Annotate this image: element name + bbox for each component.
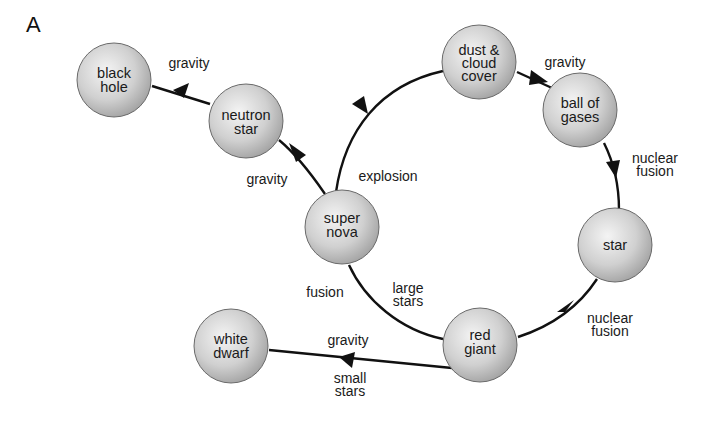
node-neutron-star: neutron star: [209, 84, 283, 158]
edge-redgiant-to-whitedwarf: [269, 350, 452, 368]
node-ball-of-gases: ball of gases: [543, 73, 617, 147]
node-label: nova: [326, 224, 358, 240]
edge-label: stars: [393, 293, 423, 309]
node-label: gases: [561, 109, 600, 125]
edge-star-to-redgiant: [518, 279, 597, 337]
node-label: cover: [461, 68, 497, 84]
edge-label: stars: [335, 383, 365, 399]
node-dust-cloud: dust & cloud cover: [442, 25, 516, 99]
edge-label: fusion: [636, 163, 673, 179]
edge-label: gravity: [544, 54, 585, 70]
edge-label: fusion: [591, 323, 628, 339]
node-label: star: [603, 237, 627, 253]
node-supernova: super nova: [305, 190, 379, 264]
edge-ball-to-star: [604, 143, 619, 210]
edge-label: fusion: [306, 284, 343, 300]
node-white-dwarf: white dwarf: [194, 309, 268, 383]
node-star: star: [578, 208, 652, 282]
node-label: giant: [464, 341, 495, 357]
node-label: star: [234, 121, 258, 137]
arrow-head-icon: [352, 96, 368, 114]
node-label: hole: [100, 79, 127, 95]
edge-label: gravity: [168, 55, 209, 71]
arrow-head-icon: [339, 352, 355, 368]
arrow-head-icon: [557, 300, 574, 312]
node-label: dwarf: [213, 345, 249, 361]
arrow-head-icon: [529, 70, 548, 85]
node-black-hole: black hole: [77, 43, 151, 117]
edge-label: gravity: [246, 171, 287, 187]
stellar-lifecycle-diagram: dust & cloud cover ball of gases star re…: [0, 0, 714, 425]
node-red-giant: red giant: [443, 308, 517, 382]
arrow-head-icon: [606, 160, 620, 178]
edge-label: explosion: [358, 168, 417, 184]
edge-label: gravity: [327, 332, 368, 348]
